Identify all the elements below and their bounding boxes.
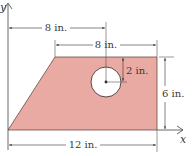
composite-area-diagram: y x 8 in. 8 in. 2 in. 6 in. 12 in xyxy=(0,0,192,156)
dimension-label-top-width: 8 in. xyxy=(95,39,117,50)
dimension-label-bottom-width: 12 in. xyxy=(69,139,98,150)
dimension-label-top-offset: 8 in. xyxy=(45,22,67,33)
dimension-label-hole-offset: 2 in. xyxy=(126,65,148,76)
dimension-label-height: 6 in. xyxy=(162,88,184,99)
x-axis-label: x xyxy=(180,133,187,146)
y-axis-label: y xyxy=(0,1,7,14)
